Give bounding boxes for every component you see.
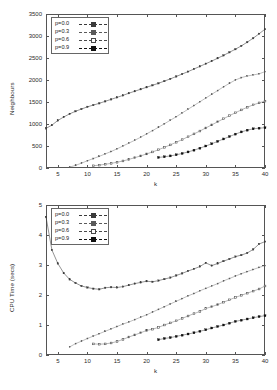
y-tick-mark <box>262 355 265 356</box>
series-marker <box>152 328 154 330</box>
series-marker <box>181 318 183 320</box>
series-marker <box>99 333 100 334</box>
x-tick-mark <box>87 14 88 17</box>
legend-label: p=0.6 <box>55 36 69 42</box>
legend-item-p06: p=0.6 <box>53 36 107 44</box>
series-marker <box>157 339 159 341</box>
series-marker <box>264 285 266 287</box>
series-marker <box>193 293 194 294</box>
series-marker <box>217 90 218 91</box>
series-marker <box>69 113 71 115</box>
series-marker <box>235 256 237 258</box>
series-marker <box>81 285 83 287</box>
series-marker <box>234 320 236 322</box>
series-marker <box>205 127 207 129</box>
series-marker <box>81 108 83 110</box>
series-marker <box>51 249 53 251</box>
x-tick-mark <box>235 352 236 355</box>
series-marker <box>51 124 53 126</box>
series-marker <box>128 321 129 322</box>
series-marker <box>229 83 230 84</box>
series-marker <box>199 101 200 102</box>
series-marker <box>193 105 194 106</box>
series-marker <box>122 160 124 162</box>
y-axis-label-neighbours: Neighbours <box>8 82 15 115</box>
series-marker <box>104 287 106 289</box>
legend-marker <box>91 30 96 35</box>
series-marker <box>93 343 95 345</box>
series-marker <box>93 104 95 106</box>
series-marker <box>217 263 219 265</box>
x-tick-mark <box>87 352 88 355</box>
series-marker <box>45 216 47 218</box>
x-tick-mark <box>117 165 118 168</box>
series-marker <box>217 121 219 123</box>
series-marker <box>234 133 236 135</box>
series-marker <box>217 304 219 306</box>
series-marker <box>205 145 207 147</box>
series-marker <box>176 301 177 302</box>
series-marker <box>164 80 166 82</box>
series-marker <box>228 136 230 138</box>
series-marker <box>116 326 117 327</box>
x-tick-label: 20 <box>135 171 159 177</box>
x-tick-mark <box>87 205 88 208</box>
series-line-p03 <box>70 72 265 167</box>
series-marker <box>252 37 254 39</box>
y-tick-label: 2000 <box>16 77 42 83</box>
series-marker <box>169 322 171 324</box>
y-tick-mark <box>262 235 265 236</box>
x-tick-mark <box>176 14 177 17</box>
x-tick-label: 40 <box>253 358 277 364</box>
series-marker <box>223 118 225 120</box>
series-marker <box>146 153 148 155</box>
legend-label: p=0.9 <box>55 235 69 241</box>
series-marker <box>63 272 64 274</box>
series-marker <box>259 267 260 268</box>
legend-item-p00: p=0.0 <box>53 20 107 28</box>
x-axis-label-neighbours: k <box>136 180 176 187</box>
series-marker <box>241 45 243 47</box>
series-marker <box>122 339 124 341</box>
series-marker <box>211 327 213 329</box>
series-marker <box>170 277 172 279</box>
series-marker <box>75 282 77 284</box>
series-marker <box>199 66 201 68</box>
y-tick-label: 2500 <box>16 55 42 61</box>
series-marker <box>253 269 254 270</box>
series-marker <box>146 314 147 315</box>
series-marker <box>104 101 106 103</box>
series-marker <box>181 334 183 336</box>
y-tick-label: 5 <box>16 202 42 208</box>
series-marker <box>134 283 136 285</box>
series-marker <box>75 343 76 344</box>
series-marker <box>229 278 230 279</box>
series-marker <box>223 260 225 262</box>
series-marker <box>181 139 183 141</box>
series-marker <box>146 133 147 134</box>
legend-neighbours: p=0.0p=0.3p=0.6p=0.9 <box>51 17 109 54</box>
series-marker <box>252 317 254 319</box>
series-marker <box>69 279 71 281</box>
y-tick-label: 0 <box>16 165 42 171</box>
series-marker <box>158 127 159 128</box>
series-marker <box>110 286 112 288</box>
series-marker <box>122 145 123 146</box>
legend-marker <box>91 229 96 234</box>
series-marker <box>193 133 195 135</box>
series-marker <box>187 136 189 138</box>
x-tick-label: 30 <box>194 358 218 364</box>
series-marker <box>69 346 70 347</box>
series-marker <box>134 157 136 159</box>
series-marker <box>252 290 254 292</box>
x-tick-mark <box>176 352 177 355</box>
series-marker <box>140 317 141 318</box>
series-marker <box>211 124 213 126</box>
series-marker <box>246 129 248 131</box>
series-marker <box>81 341 82 342</box>
series-marker <box>87 106 89 108</box>
legend-label: p=0.9 <box>55 44 69 50</box>
series-marker <box>116 341 118 343</box>
series-marker <box>217 140 219 142</box>
series-marker <box>57 263 59 265</box>
